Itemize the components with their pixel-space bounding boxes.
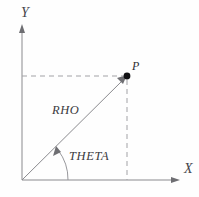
x-axis-arrow-icon [171, 177, 180, 183]
x-axis-label: X [184, 162, 193, 176]
y-axis-arrow-icon [19, 24, 25, 33]
radius-label: RHO [52, 104, 80, 117]
angle-label: THETA [69, 150, 109, 163]
point-p-label: P [132, 60, 139, 72]
angle-arc-line [58, 150, 68, 180]
diagram-canvas [0, 0, 199, 197]
point-p-dot [124, 73, 131, 80]
y-axis-label: Y [21, 6, 29, 20]
polar-coordinate-diagram: Y X P RHO THETA [0, 0, 199, 197]
radius-ray-line [22, 79, 124, 180]
